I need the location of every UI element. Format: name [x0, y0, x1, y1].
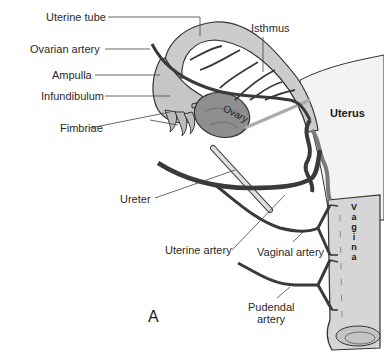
label-pudendal-artery-line1: Pudendal — [248, 301, 295, 313]
label-pudendal-artery-line2: artery — [257, 313, 285, 325]
label-ovarian-artery: Ovarian artery — [30, 43, 100, 55]
label-infundibulum: Infundibulum — [41, 90, 104, 102]
label-uterine-artery: Uterine artery — [165, 244, 232, 256]
vagina-letter: a — [350, 212, 358, 222]
vagina-letter: i — [350, 232, 358, 242]
vagina-opening — [336, 326, 380, 346]
label-ampulla: Ampulla — [52, 69, 92, 81]
vagina-letter: n — [350, 242, 358, 252]
panel-letter: A — [148, 311, 159, 323]
label-uterus: Uterus — [330, 107, 365, 119]
label-ureter: Ureter — [120, 193, 151, 205]
label-uterine-tube: Uterine tube — [46, 11, 106, 23]
vagina-letter: g — [350, 222, 358, 232]
label-vaginal-artery: Vaginal artery — [257, 246, 324, 258]
label-fimbriae: Fimbriae — [60, 122, 103, 134]
vagina-letter: a — [350, 252, 358, 262]
vagina-letter: V — [350, 202, 358, 212]
female-reproductive-anatomy-diagram: Uterine tube Ovarian artery Ampulla Infu… — [0, 0, 384, 357]
label-isthmus: Isthmus — [251, 22, 290, 34]
uterine-artery-shape — [158, 150, 320, 188]
vaginal-artery-shape — [215, 185, 330, 255]
